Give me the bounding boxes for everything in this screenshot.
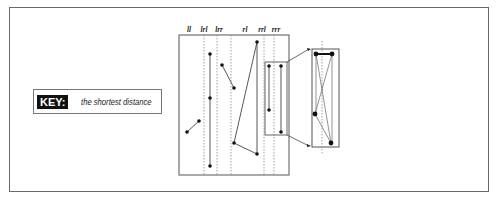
point [232,86,236,90]
point [279,64,283,68]
arrowhead-icon [307,48,311,51]
point [185,130,189,134]
point [208,164,212,168]
point [220,63,224,67]
distance-segment [187,121,199,132]
main-region-box [179,35,289,175]
distance-segment [234,143,257,154]
point [208,52,212,56]
arrowhead-icon [307,144,311,147]
zoom-connector-bottom [287,135,309,146]
point [232,141,236,145]
point [279,130,283,134]
point [255,40,259,44]
zoom-point [329,141,334,146]
closest-pair-diagram [0,0,497,200]
point [267,64,271,68]
zoom-connector-top [287,49,309,62]
zoom-point [314,52,319,57]
distance-segment [222,65,234,88]
distance-segment [234,42,257,143]
point [255,152,259,156]
point [197,119,201,123]
point [267,108,271,112]
highlight-box [265,62,287,135]
point [208,96,212,100]
zoom-point [313,112,318,117]
zoom-point [330,52,335,57]
